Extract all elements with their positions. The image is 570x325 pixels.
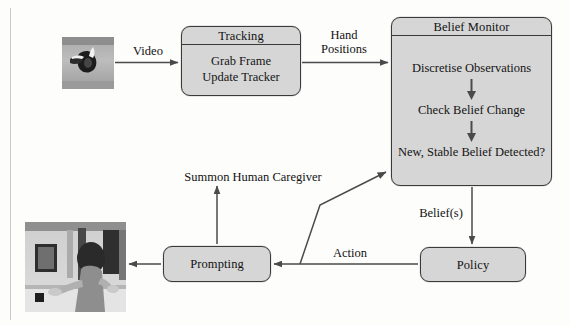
node-policy-title: Policy (457, 258, 490, 272)
down-arrow-icon (466, 79, 477, 100)
node-prompting-title: Prompting (190, 257, 244, 271)
node-tracking-title: Tracking (218, 29, 263, 43)
page-margin-rule (10, 8, 11, 320)
belief-step-discretise-observations: Discretise Observations (392, 61, 551, 76)
node-tracking-step-1: Grab Frame (211, 54, 271, 70)
hand-tracking-photo-content (62, 37, 114, 89)
node-tracking[interactable]: Tracking Grab Frame Update Tracker (181, 26, 301, 96)
edge-label-summon-human-caregiver: Summon Human Caregiver (168, 170, 338, 184)
node-tracking-body: Grab Frame Update Tracker (182, 44, 300, 95)
edge-label-action: Action (318, 246, 382, 260)
node-belief-monitor-header: Belief Monitor (392, 18, 551, 36)
person-at-sink-photo-content (25, 222, 126, 312)
node-prompting[interactable]: Prompting (163, 246, 271, 282)
node-tracking-header: Tracking (182, 27, 300, 45)
edge-label-hand-positions: Hand Positions (303, 28, 385, 57)
down-arrow-icon (466, 121, 477, 142)
node-belief-monitor-body: Discretise Observations Check Belief Cha… (392, 35, 551, 185)
node-belief-monitor-title: Belief Monitor (433, 20, 509, 34)
node-policy[interactable]: Policy (420, 247, 526, 282)
node-belief-monitor[interactable]: Belief Monitor Discretise Observations C… (391, 17, 552, 186)
edge-label-video: Video (118, 44, 178, 58)
node-tracking-step-2: Update Tracker (202, 70, 279, 86)
belief-step-check-belief-change: Check Belief Change (392, 103, 551, 118)
hand-tracking-photo (62, 37, 114, 89)
figure-canvas: Tracking Grab Frame Update Tracker Belie… (0, 0, 570, 325)
belief-step-new-stable-belief-detected: New, Stable Belief Detected? (392, 145, 551, 160)
person-at-sink-photo (25, 222, 126, 312)
edge-label-beliefs: Belief(s) (404, 206, 478, 220)
